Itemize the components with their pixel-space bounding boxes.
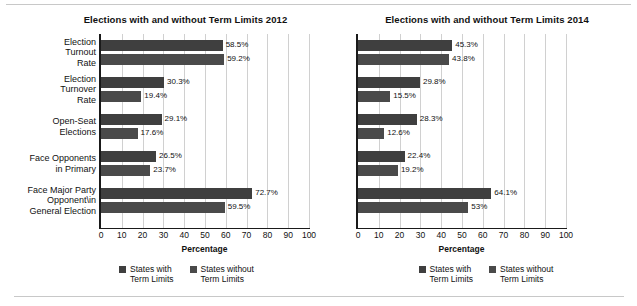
- x-axis-tick-label: 80: [520, 230, 529, 240]
- legend-label: States without Term Limits: [201, 264, 254, 284]
- bar-row: 15.5%: [358, 91, 566, 102]
- bar[interactable]: [358, 202, 468, 213]
- legend-swatch-icon: [190, 266, 197, 273]
- bar-value-label: 59.5%: [228, 201, 251, 212]
- bar-value-label: 29.1%: [165, 113, 188, 124]
- legend-2014: States with Term Limits States without T…: [333, 264, 637, 284]
- bar-group: Face Major Party Opponent\in General Ele…: [101, 188, 309, 216]
- x-axis-tick-label: 0: [356, 230, 361, 240]
- chart-panel-2014: Elections with and without Term Limits 2…: [333, 8, 637, 296]
- x-axis-tick-label: 80: [263, 230, 272, 240]
- x-axis-tick-label: 30: [416, 230, 425, 240]
- bar-group: Election Turnover Rate30.3%19.4%: [101, 77, 309, 105]
- x-axis-tick-label: 60: [478, 230, 487, 240]
- x-axis-tick-label: 50: [457, 230, 466, 240]
- bar-row: 23.7%: [101, 165, 309, 176]
- x-axis-tick-label: 60: [221, 230, 230, 240]
- bar-value-label: 53%: [471, 201, 487, 212]
- x-axis-tick-label: 90: [283, 230, 292, 240]
- bar[interactable]: [101, 114, 162, 125]
- legend-item-states-with-term-limits[interactable]: States with Term Limits: [419, 264, 473, 284]
- x-axis-tick-label: 10: [374, 230, 383, 240]
- bar-value-label: 58.5%: [226, 39, 249, 50]
- bar-value-label: 15.5%: [393, 90, 416, 101]
- category-label: Open-Seat Elections: [52, 116, 96, 137]
- bar[interactable]: [358, 54, 449, 65]
- legend-item-states-without-term-limits[interactable]: States without Term Limits: [190, 264, 254, 284]
- bar[interactable]: [101, 54, 224, 65]
- charts-row: Elections with and without Term Limits 2…: [0, 8, 637, 296]
- category-label: Face Opponents in Primary: [29, 153, 96, 174]
- bar[interactable]: [101, 91, 141, 102]
- x-axis-tick-label: 100: [559, 230, 573, 240]
- bar-value-label: 19.4%: [144, 90, 167, 101]
- bottom-divider: [14, 296, 624, 297]
- bar[interactable]: [358, 128, 384, 139]
- x-axis-tick-label: 40: [436, 230, 445, 240]
- legend-label: States with Term Limits: [130, 264, 173, 284]
- bar[interactable]: [358, 151, 405, 162]
- bar[interactable]: [358, 188, 491, 199]
- bar-group: Election Turnout Rate58.5%59.2%: [101, 40, 309, 68]
- bar[interactable]: [358, 91, 390, 102]
- x-axis-line-2012: [99, 228, 310, 229]
- bar[interactable]: [358, 114, 417, 125]
- legend-swatch-icon: [119, 266, 126, 273]
- legend-swatch-icon: [489, 266, 496, 273]
- bar-row: 30.3%: [101, 77, 309, 88]
- bar[interactable]: [358, 165, 398, 176]
- legend-item-states-with-term-limits[interactable]: States with Term Limits: [119, 264, 173, 284]
- bar-value-label: 12.6%: [387, 127, 410, 138]
- bar[interactable]: [101, 128, 138, 139]
- bar[interactable]: [101, 188, 252, 199]
- bar[interactable]: [101, 151, 156, 162]
- x-axis-ticks: 0102030405060708090100: [99, 230, 310, 242]
- bar-row: 59.2%: [101, 54, 309, 65]
- bar-group: 22.4%19.2%: [358, 151, 566, 179]
- bar-row: 17.6%: [101, 128, 309, 139]
- x-axis-tick-label: 100: [302, 230, 316, 240]
- category-label: Election Turnout Rate: [64, 37, 96, 69]
- bar-group: 28.3%12.6%: [358, 114, 566, 142]
- bar-value-label: 28.3%: [420, 113, 443, 124]
- bar-value-label: 43.8%: [452, 53, 475, 64]
- bar-row: 29.8%: [358, 77, 566, 88]
- bar[interactable]: [358, 77, 420, 88]
- x-axis-tick-label: 70: [242, 230, 251, 240]
- bar-group: 64.1%53%: [358, 188, 566, 216]
- bar-value-label: 45.3%: [455, 39, 478, 50]
- x-axis-tick-label: 90: [540, 230, 549, 240]
- plot-area-2012: Election Turnout Rate58.5%59.2%Election …: [101, 34, 309, 228]
- x-axis-tick-label: 30: [159, 230, 168, 240]
- bar-value-label: 64.1%: [494, 187, 517, 198]
- bar-row: 22.4%: [358, 151, 566, 162]
- bar-value-label: 19.2%: [401, 164, 424, 175]
- bar-group: Face Opponents in Primary26.5%23.7%: [101, 151, 309, 179]
- bar[interactable]: [101, 40, 223, 51]
- x-axis-tick-label: 10: [117, 230, 126, 240]
- bar[interactable]: [101, 165, 150, 176]
- chart-panel-2012: Elections with and without Term Limits 2…: [0, 8, 333, 296]
- bar[interactable]: [358, 40, 452, 51]
- bar-row: 72.7%: [101, 188, 309, 199]
- x-axis-title: Percentage: [356, 244, 567, 254]
- bar[interactable]: [101, 202, 225, 213]
- bar-row: 19.4%: [101, 91, 309, 102]
- bar-value-label: 29.8%: [423, 76, 446, 87]
- x-axis-tick-label: 0: [99, 230, 104, 240]
- bar[interactable]: [101, 77, 164, 88]
- x-axis-tick-label: 50: [200, 230, 209, 240]
- x-axis-tick-label: 20: [138, 230, 147, 240]
- bar-value-label: 23.7%: [153, 164, 176, 175]
- bar-value-label: 22.4%: [408, 150, 431, 161]
- bar-row: 45.3%: [358, 40, 566, 51]
- legend-item-states-without-term-limits[interactable]: States without Term Limits: [489, 264, 553, 284]
- bar-row: 59.5%: [101, 202, 309, 213]
- category-label: Election Turnover Rate: [60, 74, 96, 106]
- legend-label: States with Term Limits: [430, 264, 473, 284]
- x-axis-tick-label: 40: [179, 230, 188, 240]
- bar-value-label: 26.5%: [159, 150, 182, 161]
- figure-container: Elections with and without Term Limits 2…: [0, 0, 637, 306]
- gridline: [309, 34, 310, 228]
- chart-title-2014: Elections with and without Term Limits 2…: [333, 14, 637, 25]
